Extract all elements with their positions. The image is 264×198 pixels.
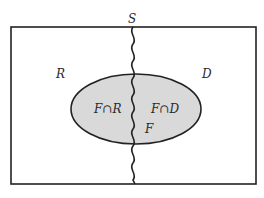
label-f: F	[144, 122, 154, 136]
event-f-ellipse	[71, 74, 201, 144]
label-r: R	[55, 67, 65, 81]
label-f-intersect-d: F∩D	[150, 102, 179, 116]
label-f-intersect-r: F∩R	[93, 102, 121, 116]
label-d: D	[201, 67, 212, 81]
venn-diagram: S R D F∩R F∩D F	[0, 0, 264, 198]
label-s: S	[128, 12, 136, 26]
